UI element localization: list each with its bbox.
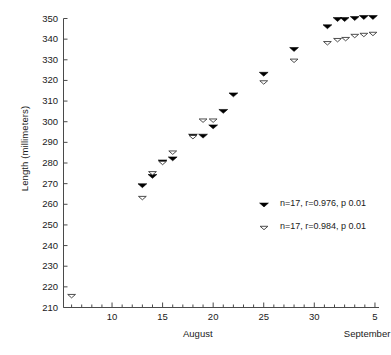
legend-label: n=17, r=0.976, p 0.01 — [280, 198, 366, 208]
data-point — [159, 161, 167, 164]
data-point — [169, 151, 177, 154]
data-point — [351, 34, 359, 37]
data-point — [199, 119, 207, 122]
data-point — [290, 59, 298, 62]
data-point — [259, 72, 268, 76]
series-open-triangle-series — [68, 32, 377, 298]
data-point — [369, 32, 377, 35]
data-point — [340, 18, 349, 22]
data-point — [199, 134, 208, 138]
open-down-triangle-icon — [258, 222, 272, 234]
data-point — [138, 184, 147, 188]
data-point — [209, 119, 217, 122]
data-point — [290, 48, 299, 52]
data-point — [323, 25, 332, 29]
data-points-layer — [0, 0, 391, 355]
filled-down-triangle-icon — [258, 199, 272, 211]
data-point — [342, 37, 350, 40]
data-point — [360, 33, 368, 36]
data-point — [359, 16, 368, 20]
data-point — [68, 294, 76, 297]
legend-label: n=17, r=0.984, p 0.01 — [280, 221, 366, 231]
data-point — [324, 42, 332, 45]
series-filled-triangle-series — [138, 16, 377, 188]
data-point — [229, 93, 238, 97]
data-point — [219, 109, 228, 113]
data-point — [260, 81, 268, 84]
scatter-plot-figure: Length (millimeters) 2102202302402502602… — [0, 0, 391, 355]
data-point — [209, 125, 218, 129]
data-point — [168, 157, 177, 161]
data-point — [189, 135, 197, 138]
data-point — [350, 17, 359, 21]
data-point — [334, 38, 342, 41]
data-point — [138, 196, 146, 199]
data-point — [369, 16, 378, 20]
